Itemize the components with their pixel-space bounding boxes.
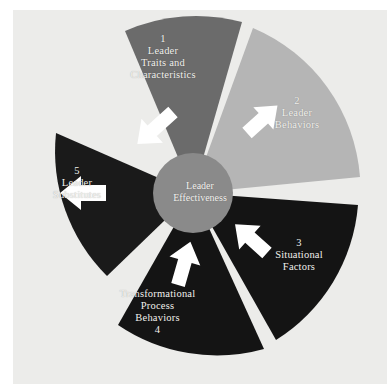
- center-circle[interactable]: [153, 153, 233, 233]
- leader-effectiveness-diagram: [0, 0, 387, 384]
- figure-page: 1 Leader Traits and Characteristics 2 Le…: [0, 0, 387, 384]
